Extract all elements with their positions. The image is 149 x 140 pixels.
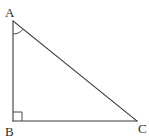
triangle-diagram: A B C bbox=[0, 0, 149, 140]
vertex-label-a: A bbox=[5, 5, 15, 20]
vertex-label-b: B bbox=[5, 124, 14, 139]
geometry-figure: A B C bbox=[0, 0, 149, 140]
vertex-label-c: C bbox=[138, 121, 147, 136]
